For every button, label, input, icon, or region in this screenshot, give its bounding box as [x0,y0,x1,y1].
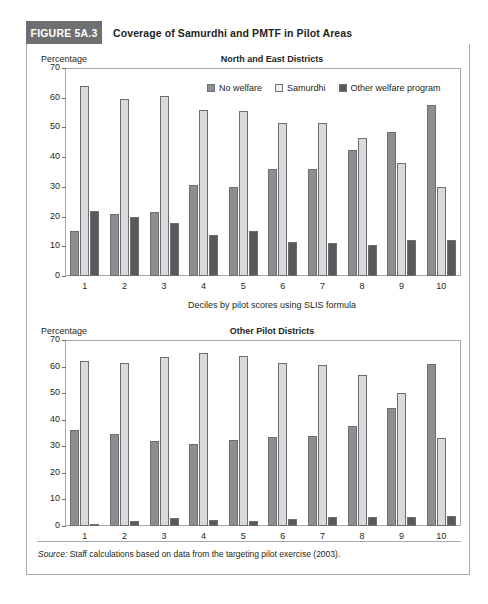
x-axis-tick-label: 3 [151,281,177,291]
bar-no-welfare-decile-9 [387,408,396,526]
figure-container: FIGURE 5A.3 Coverage of Samurdhi and PMT… [0,0,488,604]
y-axis-tick-label: 50 [38,387,60,397]
bar-no-welfare-decile-3 [150,212,159,276]
bar-no-welfare-decile-8 [348,150,357,276]
source-divider [37,541,461,542]
bar-other-welfare-program-decile-10 [447,240,456,276]
bar-other-welfare-program-decile-8 [368,517,377,526]
y-axis-tick-label: 70 [38,334,60,344]
legend-label-samurdhi: Samurdhi [287,83,326,93]
x-axis-tick-label: 5 [230,281,256,291]
x-axis-tick-label: 2 [111,281,137,291]
figure-header: FIGURE 5A.3 Coverage of Samurdhi and PMT… [26,21,470,44]
chart-panel-north-east: Percentage North and East Districts No w… [27,54,471,324]
bar-samurdhi-decile-4 [199,353,208,526]
y-axis-tick-mark [62,157,66,158]
figure-title: Coverage of Samurdhi and PMTF in Pilot A… [102,21,470,44]
bar-other-welfare-program-decile-9 [407,517,416,526]
bar-other-welfare-program-decile-2 [130,521,139,526]
bar-no-welfare-decile-2 [110,214,119,276]
bar-samurdhi-decile-7 [318,365,327,526]
y-axis-tick-mark [62,446,66,447]
y-axis-tick-label: 0 [38,270,60,280]
x-axis-tick-label: 10 [428,531,454,541]
bar-no-welfare-decile-1 [70,430,79,526]
source-label: Source: [38,549,67,559]
bar-samurdhi-decile-7 [318,123,327,276]
y-axis-tick-mark [62,367,66,368]
chart-subtitle-top: North and East Districts [157,54,387,64]
bar-no-welfare-decile-9 [387,132,396,276]
x-axis-tick-label: 5 [230,531,256,541]
y-axis-tick-mark [62,187,66,188]
x-axis-tick-label: 6 [270,531,296,541]
x-axis-tick-label: 4 [191,281,217,291]
bar-other-welfare-program-decile-1 [90,211,99,276]
legend-item-samurdhi: Samurdhi [275,83,326,93]
bar-samurdhi-decile-2 [120,99,129,276]
bar-other-welfare-program-decile-5 [249,521,258,526]
bar-samurdhi-decile-9 [397,163,406,276]
bar-other-welfare-program-decile-7 [328,243,337,276]
source-note: Source: Staff calculations based on data… [38,549,340,559]
bar-samurdhi-decile-2 [120,363,129,526]
y-axis-tick-mark [62,340,66,341]
bar-no-welfare-decile-5 [229,187,238,276]
bar-samurdhi-decile-8 [358,375,367,526]
x-axis-title-top: Deciles by pilot scores using SLIS formu… [137,300,407,310]
chart-subtitle-bottom: Other Pilot Districts [157,326,387,336]
legend-label-other-welfare: Other welfare program [351,83,441,93]
bar-samurdhi-decile-4 [199,110,208,276]
y-axis-tick-label: 10 [38,493,60,503]
legend-item-no-welfare: No welfare [207,83,262,93]
bar-other-welfare-program-decile-1 [90,524,99,526]
bar-samurdhi-decile-6 [278,123,287,276]
bar-samurdhi-decile-5 [239,356,248,526]
legend-swatch-no-welfare-icon [207,84,215,92]
bar-samurdhi-decile-5 [239,111,248,276]
y-axis-tick-label: 70 [38,62,60,72]
bar-samurdhi-decile-3 [160,96,169,276]
legend-label-no-welfare: No welfare [219,83,262,93]
bar-other-welfare-program-decile-8 [368,245,377,276]
y-axis-tick-label: 50 [38,121,60,131]
legend-swatch-samurdhi-icon [275,84,283,92]
y-axis-tick-label: 60 [38,361,60,371]
bar-other-welfare-program-decile-10 [447,516,456,526]
bar-no-welfare-decile-1 [70,231,79,276]
bar-no-welfare-decile-6 [268,437,277,526]
x-axis-tick-label: 7 [309,281,335,291]
bar-no-welfare-decile-5 [229,440,238,526]
bar-samurdhi-decile-1 [80,86,89,276]
source-text: Staff calculations based on data from th… [67,549,340,559]
bar-other-welfare-program-decile-2 [130,217,139,276]
bar-samurdhi-decile-10 [437,187,446,276]
bar-samurdhi-decile-9 [397,393,406,526]
x-axis-tick-label: 1 [72,531,98,541]
x-axis-tick-label: 9 [389,281,415,291]
chart-legend: No welfare Samurdhi Other welfare progra… [207,83,441,93]
x-axis-tick-label: 8 [349,281,375,291]
y-axis-tick-mark [62,420,66,421]
bar-other-welfare-program-decile-7 [328,517,337,526]
bar-no-welfare-decile-10 [427,364,436,526]
bar-no-welfare-decile-7 [308,169,317,276]
y-axis-tick-label: 30 [38,440,60,450]
y-axis-tick-label: 0 [38,520,60,530]
legend-item-other-welfare: Other welfare program [339,83,441,93]
y-axis-tick-label: 40 [38,414,60,424]
bar-no-welfare-decile-6 [268,169,277,276]
bar-other-welfare-program-decile-5 [249,231,258,276]
x-axis-tick-label: 7 [309,531,335,541]
bar-other-welfare-program-decile-6 [288,242,297,276]
y-axis-tick-label: 30 [38,181,60,191]
bar-other-welfare-program-decile-3 [170,223,179,276]
bar-no-welfare-decile-2 [110,434,119,526]
bar-samurdhi-decile-10 [437,438,446,526]
bar-no-welfare-decile-8 [348,426,357,526]
bar-other-welfare-program-decile-4 [209,520,218,526]
bar-no-welfare-decile-4 [189,444,198,526]
bar-other-welfare-program-decile-9 [407,240,416,276]
figure-body-frame: Percentage North and East Districts No w… [26,44,470,575]
bar-other-welfare-program-decile-6 [288,519,297,526]
